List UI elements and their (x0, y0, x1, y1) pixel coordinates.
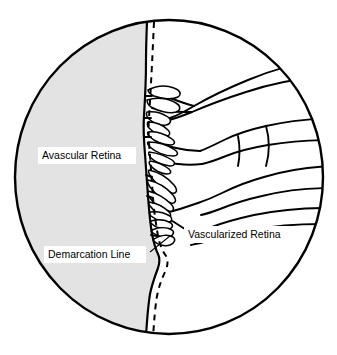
label-avascular-retina-text: Avascular Retina (42, 149, 121, 161)
label-vascularized-retina: Vascularized Retina (184, 226, 296, 243)
label-vascularized-retina-text: Vascularized Retina (188, 228, 281, 240)
label-demarcation-line: Demarcation Line (44, 246, 146, 263)
label-avascular-retina: Avascular Retina (38, 147, 136, 164)
figure-root: Avascular Retina Vascularized Retina Dem… (0, 0, 337, 355)
label-demarcation-line-text: Demarcation Line (48, 248, 130, 260)
retina-diagram: Avascular Retina Vascularized Retina Dem… (0, 0, 337, 355)
